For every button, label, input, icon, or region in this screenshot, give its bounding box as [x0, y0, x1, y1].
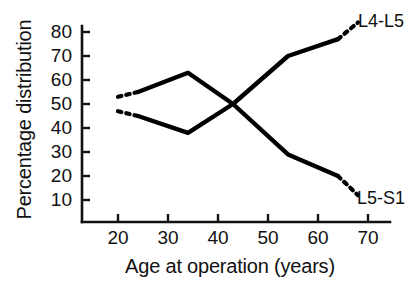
x-tick-label-70: 70: [348, 228, 388, 247]
series-l5s1-dashed-end: [338, 176, 358, 195]
series-label-l4l5: L4-L5: [358, 12, 404, 30]
y-tick-label-50: 50: [32, 94, 72, 113]
x-tick-label-50: 50: [248, 228, 288, 247]
y-tick-label-10: 10: [32, 190, 72, 209]
y-tick-label-60: 60: [32, 70, 72, 89]
series-l5s1-solid: [138, 104, 338, 176]
series-l4l5-dashed-end: [338, 22, 358, 39]
y-tick-label-20: 20: [32, 166, 72, 185]
x-tick-label-40: 40: [198, 228, 238, 247]
series-label-l5s1: L5-S1: [357, 189, 405, 207]
y-tick-label-40: 40: [32, 118, 72, 137]
y-tick-label-70: 70: [32, 46, 72, 65]
x-axis-title: Age at operation (years): [60, 255, 400, 278]
y-tick-label-80: 80: [32, 22, 72, 41]
series-l4l5-dashed-start: [118, 92, 138, 97]
series-l4l5-solid: [138, 39, 338, 104]
y-tick-label-30: 30: [32, 142, 72, 161]
x-tick-label-30: 30: [148, 228, 188, 247]
chart-figure: 80 70 60 50 40 30 20 10 20 30 40 50 60 7…: [0, 0, 417, 290]
x-tick-label-60: 60: [298, 228, 338, 247]
y-axis-title: Percentage distribution: [13, 10, 36, 230]
series-l5s1-dashed-start: [118, 111, 138, 116]
x-tick-label-20: 20: [98, 228, 138, 247]
